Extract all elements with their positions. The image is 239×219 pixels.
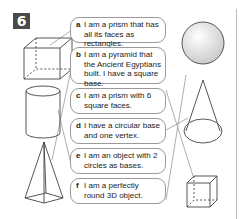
statement-text: I am a prism with 6 square faces. (84, 91, 151, 110)
statement-f: f I am a perfectly round 3D object. (70, 178, 166, 204)
cone-icon (184, 80, 222, 143)
statement-text: I am a perfectly round 3D object. (84, 181, 143, 200)
cylinder-icon (26, 86, 60, 138)
cube-icon (187, 176, 217, 207)
sphere-icon (182, 22, 224, 64)
statement-c: c I am a prism with 6 square faces. (70, 88, 166, 114)
statement-text: I am an object with 2 circles as bases. (84, 151, 157, 170)
statement-b: b I am a pyramid that the Ancient Egypti… (70, 47, 166, 84)
statement-a: a I am a prism that has all its faces as… (70, 17, 166, 43)
connector-f-sphere (166, 75, 186, 200)
connector-c-cube (166, 90, 193, 176)
statement-text: I am a pyramid that the Ancient Egyptian… (84, 50, 161, 88)
connector-a-cuboid (50, 30, 72, 45)
cuboid-icon (24, 38, 72, 79)
statement-e: e I am an object with 2 circles as bases… (70, 148, 166, 174)
statement-d: d I have a circular base and one vertex. (70, 118, 166, 144)
statement-text: I have a circular base and one vertex. (84, 121, 160, 140)
square-pyramid-icon (25, 142, 63, 203)
